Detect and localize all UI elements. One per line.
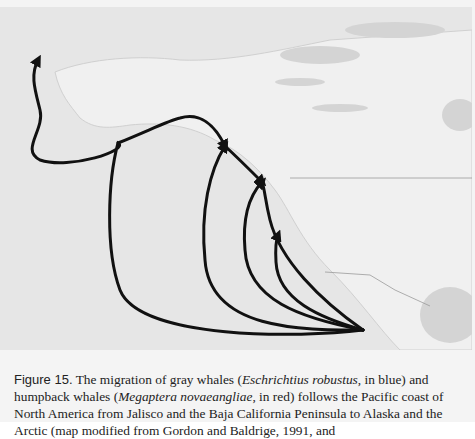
figure-caption: Figure 15. The migration of gray whales … (14, 371, 474, 439)
migration-map (0, 7, 472, 350)
caption-text-1: The migration of gray whales ( (73, 372, 242, 387)
species-name-humpback-whale: Megaptera novaeangliae (118, 389, 252, 404)
figure-label: Figure 15. (14, 372, 73, 387)
map-graphic (0, 7, 472, 350)
species-name-gray-whale: Eschrichtius robustus (242, 372, 358, 387)
